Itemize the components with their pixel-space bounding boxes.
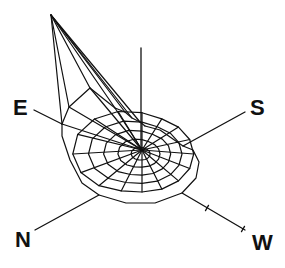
wireframe-polar-diagram <box>0 0 285 268</box>
mesh-ring <box>73 112 194 193</box>
peak-rim <box>62 88 145 126</box>
label-west: W <box>252 232 273 254</box>
label-north: N <box>15 229 31 251</box>
peak-rib <box>69 107 142 150</box>
label-east: E <box>13 97 28 119</box>
label-south: S <box>250 97 265 119</box>
axis-w <box>182 193 245 230</box>
mesh-ring <box>104 130 171 175</box>
peak-edge <box>51 15 140 122</box>
axis-n <box>35 195 99 230</box>
peak-rib <box>62 124 142 150</box>
compass-axes <box>34 110 245 232</box>
mesh-spoke <box>99 150 142 186</box>
mesh-spoke <box>78 134 142 150</box>
axis-e <box>34 110 62 124</box>
wireframe-mesh <box>51 15 199 203</box>
axis-s <box>183 112 245 146</box>
mesh-spoke <box>142 140 190 151</box>
